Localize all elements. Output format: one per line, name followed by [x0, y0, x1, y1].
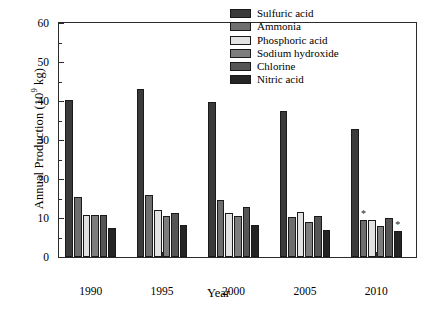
y-tick-label: 60: [38, 17, 50, 29]
bar: [91, 215, 99, 258]
bar: [180, 225, 188, 257]
legend-swatch: [230, 9, 251, 18]
y-tick-label: 50: [38, 56, 50, 68]
y-tick-mark: [59, 140, 64, 141]
legend-item: Chlorine: [230, 61, 339, 72]
legend-item: Ammonia: [230, 21, 339, 32]
y-axis-label-suffix: kg): [32, 68, 46, 88]
bar: [323, 230, 331, 257]
y-tick-mark: [59, 218, 64, 219]
bar: [385, 218, 393, 257]
bar: [74, 197, 82, 257]
x-tick-mark: [234, 252, 235, 257]
legend-swatch: [230, 49, 251, 58]
legend-swatch: [230, 22, 251, 31]
y-tick-label: 0: [43, 251, 49, 263]
legend-label: Ammonia: [257, 21, 301, 32]
bar: [171, 213, 179, 257]
y-tick-mark: [59, 62, 64, 63]
y-tick-label: 10: [38, 212, 50, 224]
bar: [394, 231, 402, 257]
y-tick-mark: [59, 179, 64, 180]
legend-label: Sodium hydroxide: [257, 48, 339, 59]
chart-figure: Annual Production (109 kg) 0102030405060…: [0, 0, 437, 320]
legend-label: Phosphoric acid: [257, 35, 328, 46]
x-tick-mark: [91, 252, 92, 257]
x-tick-mark: [305, 252, 306, 257]
legend-label: Nitric acid: [257, 74, 304, 85]
bar: [234, 216, 242, 257]
legend-swatch: [230, 62, 251, 71]
legend-label: Chlorine: [257, 61, 296, 72]
bar: [154, 210, 162, 257]
legend-item: Nitric acid: [230, 74, 339, 85]
bar-annotation-asterisk: *: [361, 209, 366, 219]
y-tick-label: 30: [38, 134, 50, 146]
bar: [351, 129, 359, 257]
y-tick-mark: [59, 23, 64, 24]
bar: [251, 225, 259, 257]
bar: [280, 111, 288, 257]
x-tick-mark: [162, 252, 163, 257]
y-minor-tick: [59, 160, 62, 161]
bar-annotation-asterisk: *: [395, 220, 400, 230]
y-axis-label-prefix: Annual Production (10: [32, 93, 46, 210]
bar: [163, 216, 171, 257]
bar: [208, 102, 216, 257]
bar: [368, 220, 376, 257]
bar: [288, 217, 296, 257]
bar: [360, 220, 368, 257]
legend-label: Sulfuric acid: [257, 8, 314, 19]
legend-item: Sulfuric acid: [230, 8, 339, 19]
bar: [108, 228, 116, 257]
bar: [83, 215, 91, 258]
y-minor-tick: [59, 82, 62, 83]
bar: [225, 213, 233, 257]
x-axis-label: Year: [0, 286, 437, 301]
legend-item: Sodium hydroxide: [230, 48, 339, 59]
bar: [137, 89, 145, 257]
bar: [100, 215, 108, 257]
y-tick-mark: [59, 101, 64, 102]
y-tick-label: 20: [38, 173, 50, 185]
legend-item: Phosphoric acid: [230, 35, 339, 46]
y-tick-label: 40: [38, 95, 50, 107]
bar: [243, 207, 251, 257]
bar: [297, 212, 305, 257]
bar: [145, 195, 153, 257]
bar: [65, 100, 73, 257]
bar: [305, 222, 313, 257]
bar: [217, 200, 225, 257]
bar: [377, 226, 385, 257]
y-minor-tick: [59, 43, 62, 44]
bar: [314, 216, 322, 257]
y-minor-tick: [59, 121, 62, 122]
legend-swatch: [230, 36, 251, 45]
y-tick-mark: [59, 257, 64, 258]
chart-legend: Sulfuric acidAmmoniaPhosphoric acidSodiu…: [230, 8, 339, 85]
y-minor-tick: [59, 199, 62, 200]
x-tick-mark: [376, 252, 377, 257]
y-minor-tick: [59, 238, 62, 239]
legend-swatch: [230, 75, 251, 84]
y-axis-label-exponent: 9: [29, 88, 39, 92]
